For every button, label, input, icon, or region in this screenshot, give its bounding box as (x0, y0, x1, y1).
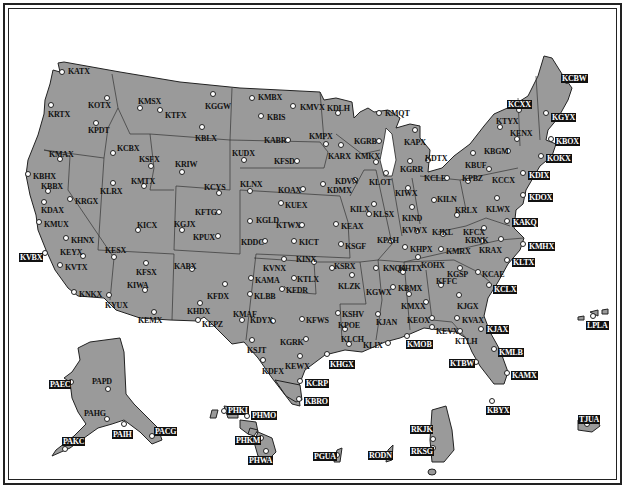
radar-site-marker-kgrr[interactable] (407, 158, 413, 164)
radar-site-marker-kbyx[interactable] (489, 398, 495, 404)
radar-site-marker-kind[interactable] (409, 204, 415, 210)
radar-site-label-paih: PAIH (112, 430, 133, 439)
radar-site-marker-kriw[interactable] (179, 169, 185, 175)
radar-site-marker-kgld[interactable] (247, 218, 253, 224)
radar-site-marker-kbhx[interactable] (25, 171, 31, 177)
radar-site-marker-ksgf[interactable] (338, 241, 344, 247)
radar-site-label-kshv: KSHV (342, 310, 364, 319)
radar-site-marker-kcbx[interactable] (110, 150, 116, 156)
radar-site-marker-kbox[interactable] (548, 136, 554, 142)
radar-site-marker-kvnx[interactable] (281, 256, 287, 262)
radar-site-marker-kdix[interactable] (520, 170, 526, 176)
radar-site-marker-kccx[interactable] (486, 166, 492, 172)
radar-site-marker-kuex[interactable] (278, 200, 284, 206)
radar-site-marker-khgx[interactable] (324, 351, 330, 357)
radar-site-marker-khpx[interactable] (402, 244, 408, 250)
radar-site-marker-klbb[interactable] (247, 291, 253, 297)
radar-site-label-paec: PAEC (49, 380, 71, 389)
radar-site-marker-kamx[interactable] (504, 370, 510, 376)
radar-site-marker-kmbx[interactable] (249, 95, 255, 101)
radar-site-marker-paih[interactable] (121, 421, 127, 427)
radar-site-marker-kbuf[interactable] (470, 150, 476, 156)
radar-site-label-kdix: KDIX (528, 171, 550, 180)
radar-site-marker-kyux[interactable] (106, 292, 112, 298)
radar-site-marker-kshv[interactable] (335, 310, 341, 316)
radar-site-marker-kvax[interactable] (454, 315, 460, 321)
radar-site-marker-kblx[interactable] (199, 124, 205, 130)
radar-site-marker-kdax[interactable] (41, 199, 47, 205)
radar-site-marker-klix[interactable] (385, 340, 391, 346)
radar-site-marker-kfdx[interactable] (222, 281, 228, 287)
radar-site-marker-klsx[interactable] (366, 211, 372, 217)
radar-site-marker-kakq[interactable] (504, 218, 510, 224)
radar-site-marker-katx[interactable] (59, 69, 65, 75)
radar-site-marker-kfdr[interactable] (279, 286, 285, 292)
radar-site-marker-kmux[interactable] (36, 219, 42, 225)
radar-site-marker-kggw[interactable] (210, 91, 216, 97)
radar-site-marker-ktlh[interactable] (457, 328, 463, 334)
radar-site-marker-kltx[interactable] (504, 257, 510, 263)
radar-site-marker-kftg[interactable] (216, 209, 222, 215)
radar-site-marker-kvtx[interactable] (57, 262, 63, 268)
radar-site-marker-kama[interactable] (248, 275, 254, 281)
radar-site-marker-kmlb[interactable] (491, 346, 497, 352)
radar-site-marker-kmrx[interactable] (438, 246, 444, 252)
radar-site-marker-kfws[interactable] (299, 316, 305, 322)
radar-site-marker-ksjt[interactable] (249, 337, 255, 343)
radar-site-marker-kilx[interactable] (371, 201, 377, 207)
radar-site-marker-kmpx[interactable] (323, 141, 329, 147)
radar-site-marker-krgx[interactable] (67, 196, 73, 202)
radar-site-marker-kjax[interactable] (478, 326, 484, 332)
radar-site-marker-klzk[interactable] (349, 272, 355, 278)
radar-site-marker-phwa[interactable] (263, 448, 269, 454)
radar-site-marker-ktfx[interactable] (157, 107, 163, 113)
radar-site-marker-kfsx[interactable] (143, 260, 149, 266)
radar-site-marker-kokx[interactable] (538, 153, 544, 159)
radar-site-marker-kevx[interactable] (429, 324, 435, 330)
radar-site-marker-kmob[interactable] (404, 333, 410, 339)
radar-site-marker-klot[interactable] (383, 170, 389, 176)
radar-site-marker-kapx[interactable] (412, 127, 418, 133)
radar-site-marker-phmo[interactable] (244, 413, 250, 419)
radar-site-marker-kclx[interactable] (486, 282, 492, 288)
radar-site-label-pahg: PAHG (84, 409, 106, 418)
radar-site-marker-papd[interactable] (105, 386, 111, 392)
radar-site-marker-knkx[interactable] (71, 289, 77, 295)
radar-site-marker-rkjk[interactable] (430, 436, 436, 442)
radar-site-marker-kict[interactable] (291, 238, 297, 244)
radar-site-marker-pakc[interactable] (62, 446, 68, 452)
radar-site-marker-keax[interactable] (333, 221, 339, 227)
radar-site-marker-kdfx[interactable] (260, 357, 266, 363)
radar-site-marker-karx[interactable] (338, 142, 344, 148)
radar-site-marker-lpla[interactable] (590, 313, 596, 319)
radar-site-marker-khdx[interactable] (197, 300, 203, 306)
radar-site-marker-kcrp[interactable] (297, 378, 303, 384)
radar-site-marker-khnx[interactable] (63, 235, 69, 241)
radar-site-marker-kbis[interactable] (258, 113, 264, 119)
radar-site-label-kcbx: KCBX (117, 144, 139, 153)
radar-site-marker-kpux[interactable] (215, 233, 221, 239)
radar-site-marker-knqa[interactable] (373, 265, 379, 271)
radar-site-marker-kgyx[interactable] (543, 110, 549, 116)
radar-site-marker-kcae[interactable] (475, 269, 481, 275)
radar-site-marker-krtx[interactable] (48, 102, 54, 108)
radar-site-marker-kdmx[interactable] (320, 181, 326, 187)
radar-site-marker-kjan[interactable] (375, 311, 381, 317)
radar-site-label-kyux: KYUX (105, 301, 128, 310)
radar-site-label-kemx: KEMX (138, 316, 162, 325)
radar-site-marker-kewx[interactable] (297, 353, 303, 359)
radar-site-marker-kohx[interactable] (415, 254, 421, 260)
radar-site-marker-kdox[interactable] (520, 192, 526, 198)
radar-site-marker-klwx[interactable] (494, 195, 500, 201)
radar-site-marker-kmvx[interactable] (290, 103, 296, 109)
radar-site-marker-krax[interactable] (498, 236, 504, 242)
radar-site-marker-kmqt[interactable] (376, 110, 382, 116)
radar-site-label-kjgx: KJGX (457, 302, 478, 311)
radar-site-marker-kepz[interactable] (195, 317, 201, 323)
radar-site-marker-kemx[interactable] (151, 309, 157, 315)
radar-site-marker-kjgx[interactable] (456, 292, 462, 298)
radar-site-label-kabx: KABX (174, 262, 196, 271)
radar-site-marker-kbro[interactable] (296, 396, 302, 402)
radar-site-marker-kmhx[interactable] (520, 241, 526, 247)
radar-site-marker-klrx[interactable] (110, 180, 116, 186)
